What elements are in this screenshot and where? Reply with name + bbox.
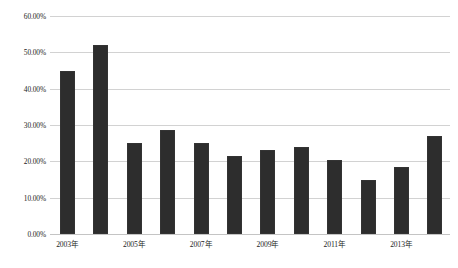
y-tick-label: 60.00% [24, 12, 46, 21]
x-tick-label: 2009年 [257, 238, 280, 249]
x-tick-label: 2003年 [56, 238, 79, 249]
x-tick-label: 2013年 [390, 238, 413, 249]
bar [394, 167, 409, 234]
y-tick-label: 10.00% [24, 193, 46, 202]
x-tick-label: 2005年 [123, 238, 146, 249]
y-axis-tick-labels: 0.00%10.00%20.00%30.00%40.00%50.00%60.00… [0, 16, 46, 234]
bar [60, 71, 75, 235]
bar [93, 45, 108, 234]
bar [160, 130, 175, 234]
bar [294, 147, 309, 234]
bar [227, 156, 242, 234]
y-tick-label: 0.00% [27, 230, 46, 239]
y-tick-label: 20.00% [24, 157, 46, 166]
bar [194, 143, 209, 234]
plot-area [50, 16, 450, 234]
bar [260, 150, 275, 234]
bar [327, 160, 342, 234]
y-tick-label: 30.00% [24, 121, 46, 130]
y-tick-label: 40.00% [24, 84, 46, 93]
bar [127, 143, 142, 234]
bar [427, 136, 442, 234]
gridline-000 [50, 234, 450, 235]
x-tick-label: 2007年 [190, 238, 213, 249]
x-axis-tick-labels: 2003年2005年2007年2009年2011年2013年 [50, 236, 450, 254]
x-tick-label: 2011年 [323, 238, 345, 249]
bars-layer [50, 16, 450, 234]
y-tick-label: 50.00% [24, 48, 46, 57]
bar [361, 180, 376, 235]
bar-chart: 0.00%10.00%20.00%30.00%40.00%50.00%60.00… [0, 0, 458, 268]
